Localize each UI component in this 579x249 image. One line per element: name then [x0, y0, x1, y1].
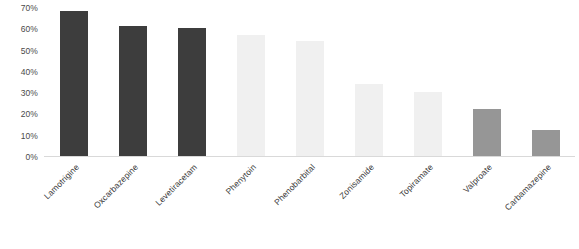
x-tick: Lamotrigine [60, 158, 88, 249]
x-axis: LamotrigineOxcarbazepineLevetiracetamPhe… [44, 158, 575, 249]
x-tick-label: Valproate [461, 162, 494, 195]
bar [60, 11, 88, 156]
y-tick-label: 10% [21, 131, 38, 141]
y-tick-label: 30% [21, 88, 38, 98]
axis-baseline [44, 156, 575, 157]
bar [296, 41, 324, 156]
x-tick: Zonisamide [355, 158, 383, 249]
y-tick-label: 20% [21, 109, 38, 119]
bar [414, 92, 442, 156]
x-tick-label: Phenytoin [223, 162, 257, 196]
x-tick-label: Phenobarbital [271, 162, 316, 207]
x-tick-label: Levetiracetam [153, 162, 199, 208]
x-tick: Carbamazepine [532, 158, 560, 249]
x-tick: Oxcarbazepine [119, 158, 147, 249]
y-axis: 0%10%20%30%40%50%60%70% [0, 0, 44, 249]
x-tick: Levetiracetam [178, 158, 206, 249]
y-tick-label: 70% [21, 3, 38, 13]
x-tick-label: Oxcarbazepine [91, 162, 139, 210]
x-tick-label: Lamotrigine [41, 162, 80, 201]
y-tick-label: 50% [21, 46, 38, 56]
y-tick-label: 40% [21, 67, 38, 77]
x-tick-label: Carbamazepine [502, 162, 552, 212]
bar-chart: 0%10%20%30%40%50%60%70% LamotrigineOxcar… [0, 0, 579, 249]
bar [473, 109, 501, 156]
bar [178, 28, 206, 156]
plot-area [44, 8, 575, 157]
y-tick-label: 60% [21, 24, 38, 34]
x-tick: Valproate [473, 158, 501, 249]
x-tick-label: Topiramate [397, 162, 435, 200]
bar [119, 26, 147, 156]
x-tick: Phenytoin [237, 158, 265, 249]
y-tick-label: 0% [26, 152, 39, 162]
x-tick: Phenobarbital [296, 158, 324, 249]
bar [355, 84, 383, 156]
x-tick: Topiramate [414, 158, 442, 249]
bar [237, 35, 265, 156]
bar [532, 130, 560, 156]
x-tick-label: Zonisamide [337, 162, 376, 201]
